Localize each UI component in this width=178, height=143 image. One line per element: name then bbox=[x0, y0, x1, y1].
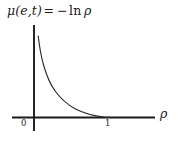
curve-neg-log-rho bbox=[38, 36, 110, 117]
figure-container: μ(e,t)=−ln ρ 0 1 ρ bbox=[0, 0, 178, 143]
x-axis-label-rho: ρ bbox=[160, 106, 167, 121]
plot-area bbox=[0, 0, 178, 143]
x-tick-label-0: 0 bbox=[21, 118, 26, 128]
x-tick-label-1: 1 bbox=[105, 118, 110, 128]
